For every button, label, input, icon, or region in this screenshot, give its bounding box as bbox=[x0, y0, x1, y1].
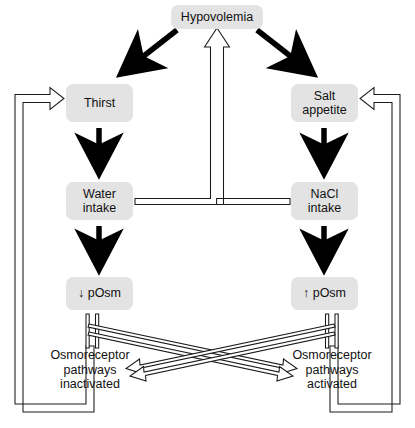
node-water-intake-label: Water intake bbox=[83, 187, 116, 216]
node-osmoreceptor-pathways-activated: Osmoreceptor pathways activated bbox=[272, 348, 392, 392]
flow-diagram: Hypovolemia Thirst Salt appetite Water i… bbox=[0, 0, 415, 428]
stub-low-posm-right bbox=[96, 314, 99, 348]
node-salt-appetite: Salt appetite bbox=[291, 84, 358, 122]
node-low-posm: ↓ pOsm bbox=[66, 277, 133, 310]
node-high-posm-label: ↑ pOsm bbox=[303, 286, 346, 300]
node-hypovolemia: Hypovolemia bbox=[171, 5, 263, 29]
stub-high-posm-right bbox=[335, 314, 338, 348]
connector-intake-tee-to-hypovolemia bbox=[135, 28, 290, 205]
node-osmoreceptor-pathways-inactivated: Osmoreceptor pathways inactivated bbox=[30, 348, 150, 392]
node-salt-appetite-label: Salt appetite bbox=[302, 89, 346, 118]
node-hypovolemia-label: Hypovolemia bbox=[181, 10, 253, 24]
node-osmoreceptor-inactivated-label: Osmoreceptor pathways inactivated bbox=[50, 348, 129, 391]
node-thirst-label: Thirst bbox=[84, 96, 115, 110]
stub-high-posm-left bbox=[326, 314, 329, 348]
node-low-posm-label: ↓ pOsm bbox=[78, 286, 121, 300]
stub-low-posm-left bbox=[86, 314, 89, 348]
arrow-hypovolemia-salt-appetite bbox=[257, 30, 312, 73]
node-nacl-intake-label: NaCl intake bbox=[308, 187, 341, 216]
node-high-posm: ↑ pOsm bbox=[291, 277, 358, 310]
node-water-intake: Water intake bbox=[66, 182, 133, 220]
node-nacl-intake: NaCl intake bbox=[291, 182, 358, 220]
node-thirst: Thirst bbox=[66, 84, 133, 122]
node-osmoreceptor-activated-label: Osmoreceptor pathways activated bbox=[292, 348, 371, 391]
arrow-hypovolemia-thirst bbox=[122, 30, 177, 73]
